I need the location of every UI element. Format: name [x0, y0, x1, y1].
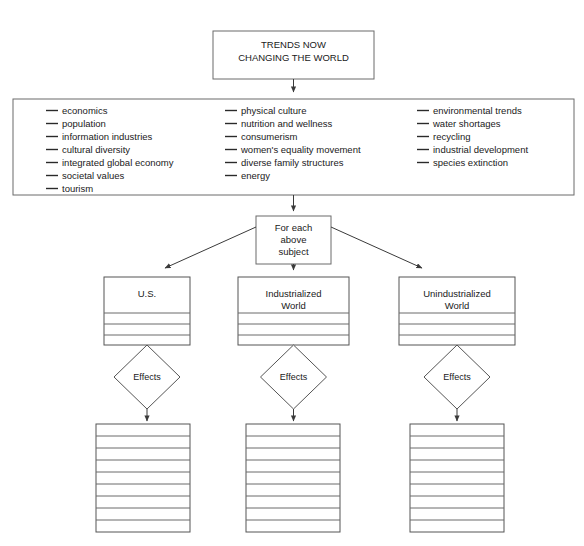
category-box-us: U.S. [104, 277, 190, 345]
trend-item-label: energy [241, 170, 270, 181]
effects-industrialized-label: Effects [280, 372, 308, 382]
trend-item-label: population [62, 118, 106, 129]
category-box-unindustrialized: Unindustrialized World [399, 277, 515, 345]
subject-line-1: For each [275, 222, 313, 233]
title-line-1: TRENDS NOW [261, 39, 326, 50]
trend-item: diverse family structures [225, 157, 344, 168]
trend-item-label: industrial development [433, 144, 528, 155]
trend-item-label: cultural diversity [62, 144, 130, 155]
category-box-industrialized: Industrialized World [238, 277, 349, 345]
results-us-rect [96, 424, 190, 532]
trend-item: information industries [46, 131, 153, 142]
trend-item-label: consumerism [241, 131, 298, 142]
effects-diamond-industrialized: Effects [261, 345, 327, 409]
trend-item: women's equality movement [225, 144, 361, 155]
category-industrialized-label-1: Industrialized [266, 288, 322, 299]
trend-item-label: water shortages [432, 118, 501, 129]
trends-list-box: economics population information industr… [13, 99, 574, 195]
trend-item: industrial development [417, 144, 528, 155]
trend-item-label: information industries [62, 131, 153, 142]
results-table-industrialized [246, 424, 340, 532]
results-unindustrialized-rect [410, 424, 504, 532]
category-us-label-1: U.S. [138, 288, 156, 299]
trend-item-label: recycling [433, 131, 471, 142]
category-unindustrialized-label-1: Unindustrialized [423, 288, 491, 299]
connector-subject-to-us [165, 227, 256, 268]
flowchart-canvas: TRENDS NOW CHANGING THE WORLD economics … [0, 0, 584, 546]
trend-item-label: tourism [62, 183, 93, 194]
effects-us-label: Effects [133, 372, 161, 382]
category-industrialized-label-2: World [281, 300, 306, 311]
trend-item-label: diverse family structures [241, 157, 344, 168]
trend-item: integrated global economy [46, 157, 174, 168]
trend-item-label: species extinction [433, 157, 508, 168]
effects-unindustrialized-label: Effects [443, 372, 471, 382]
effects-diamond-unindustrialized: Effects [424, 345, 490, 409]
trend-item-label: physical culture [241, 105, 306, 116]
trend-item: environmental trends [417, 105, 522, 116]
results-table-us [96, 424, 190, 532]
title-box: TRENDS NOW CHANGING THE WORLD [213, 31, 374, 79]
category-unindustrialized-label-2: World [445, 300, 470, 311]
trend-item-label: integrated global economy [62, 157, 174, 168]
trend-item-label: environmental trends [433, 105, 522, 116]
connector-subject-to-unindustrialized [331, 227, 422, 268]
results-industrialized-rect [246, 424, 340, 532]
trend-item-label: nutrition and wellness [241, 118, 333, 129]
results-table-unindustrialized [410, 424, 504, 532]
flowchart-diagram: TRENDS NOW CHANGING THE WORLD economics … [0, 0, 584, 546]
trend-item-label: economics [62, 105, 108, 116]
subject-box: For each above subject [256, 216, 331, 264]
effects-diamond-us: Effects [114, 345, 180, 409]
trend-item-label: societal values [62, 170, 125, 181]
trend-item-label: women's equality movement [240, 144, 361, 155]
title-line-2: CHANGING THE WORLD [238, 52, 349, 63]
subject-line-2: above [281, 234, 307, 245]
subject-line-3: subject [278, 246, 308, 257]
trend-item: nutrition and wellness [225, 118, 333, 129]
